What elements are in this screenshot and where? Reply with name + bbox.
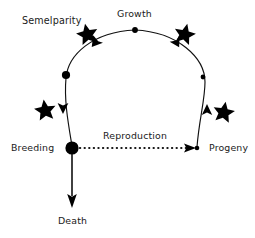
node-label-breeding: Breeding (11, 142, 54, 153)
death-arrowhead (67, 194, 77, 208)
node-dot-breeding (65, 141, 78, 154)
node-dot-left-stage (62, 71, 70, 79)
node-label-progeny: Progeny (209, 142, 248, 153)
star-icon-lower-left (33, 98, 57, 121)
arc-arrowhead-lower-right (202, 104, 212, 115)
star-icon-lower-right (212, 100, 237, 124)
node-label-growth: Growth (117, 8, 152, 19)
diagram-canvas: Semelparity Growth Breeding Progeny Repr… (0, 0, 255, 238)
edge-label-reproduction: Reproduction (103, 130, 167, 141)
node-dot-right-stage (201, 75, 206, 80)
figure-title: Semelparity (22, 15, 82, 26)
node-label-death: Death (58, 215, 87, 226)
node-dot-growth (132, 27, 138, 33)
semelparity-life-cycle-diagram: Semelparity Growth Breeding Progeny Repr… (0, 0, 255, 238)
